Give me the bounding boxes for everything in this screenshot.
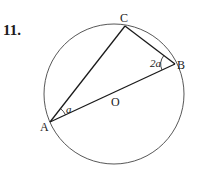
label-point-B: B [177,58,185,72]
angle-label-2a: 2a [150,57,162,69]
circle [44,24,184,164]
angle-arc-B [161,56,164,70]
circle-triangle-diagram: 11. C B A O a 2a [0,0,199,180]
angle-arc-A [61,109,66,115]
angle-label-a: a [66,103,72,115]
problem-number: 11. [3,22,21,38]
label-point-A: A [40,120,49,134]
label-center-O: O [111,95,120,109]
label-point-C: C [120,11,128,25]
